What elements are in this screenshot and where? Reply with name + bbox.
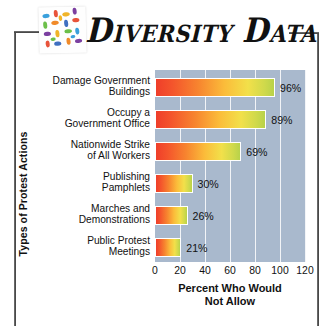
gridline-20 bbox=[180, 70, 181, 262]
mosaic-tiles-icon bbox=[38, 6, 86, 53]
category-label-4-line-1: Demonstrations bbox=[34, 214, 150, 226]
category-label-3-line-1: Pamphlets bbox=[34, 182, 150, 194]
x-axis-title-line-1: Not Allow bbox=[155, 295, 305, 308]
category-label-1-line-1: Government Office bbox=[34, 118, 150, 130]
category-label-2: Nationwide Strikeof All Workers bbox=[34, 139, 150, 162]
category-label-0-line-0: Damage Government bbox=[34, 75, 150, 87]
bar-1 bbox=[155, 110, 266, 129]
bar-5 bbox=[155, 238, 181, 257]
category-labels: Damage GovernmentBuildingsOccupy aGovern… bbox=[34, 69, 150, 261]
y-axis-title: Types of Protest Actions bbox=[17, 109, 29, 279]
bar-value-label-1: 89% bbox=[271, 114, 292, 126]
category-label-5: Public ProtestMeetings bbox=[34, 235, 150, 258]
bar-3 bbox=[155, 174, 193, 193]
category-label-4: Marches andDemonstrations bbox=[34, 203, 150, 226]
gridline-100 bbox=[280, 70, 281, 262]
page-header: Diversity Data bbox=[0, 0, 331, 60]
gridline-60 bbox=[230, 70, 231, 262]
bar-0 bbox=[155, 78, 275, 97]
plot-area bbox=[155, 70, 305, 262]
gridline-40 bbox=[205, 70, 206, 262]
gridline-120 bbox=[305, 70, 306, 262]
x-axis-title: Percent Who WouldNot Allow bbox=[155, 282, 305, 308]
category-label-2-line-0: Nationwide Strike bbox=[34, 139, 150, 151]
x-axis-ticks: 020406080100120 bbox=[0, 265, 331, 279]
x-axis-title-line-0: Percent Who Would bbox=[155, 282, 305, 295]
category-label-4-line-0: Marches and bbox=[34, 203, 150, 215]
bar-value-label-2: 69% bbox=[246, 146, 267, 158]
diversity-data-chart-page: Diversity Data Types of Protest Actions … bbox=[0, 0, 331, 326]
bar-value-label-0: 96% bbox=[280, 82, 301, 94]
category-label-0: Damage GovernmentBuildings bbox=[34, 75, 150, 98]
bar-4 bbox=[155, 206, 188, 225]
category-label-1: Occupy aGovernment Office bbox=[34, 107, 150, 130]
gridline-80 bbox=[255, 70, 256, 262]
category-label-0-line-1: Buildings bbox=[34, 86, 150, 98]
bar-value-label-4: 26% bbox=[193, 210, 214, 222]
category-label-3-line-0: Publishing bbox=[34, 171, 150, 183]
bar-2 bbox=[155, 142, 241, 161]
category-label-1-line-0: Occupy a bbox=[34, 107, 150, 119]
category-label-3: PublishingPamphlets bbox=[34, 171, 150, 194]
bar-value-label-3: 30% bbox=[198, 178, 219, 190]
category-label-5-line-1: Meetings bbox=[34, 246, 150, 258]
bar-chart: Types of Protest Actions Damage Governme… bbox=[0, 60, 331, 326]
page-title: Diversity Data bbox=[87, 7, 305, 54]
bar-value-label-5: 21% bbox=[186, 242, 207, 254]
x-tick-label-120: 120 bbox=[290, 265, 320, 276]
category-label-5-line-0: Public Protest bbox=[34, 235, 150, 247]
category-label-2-line-1: of All Workers bbox=[34, 150, 150, 162]
